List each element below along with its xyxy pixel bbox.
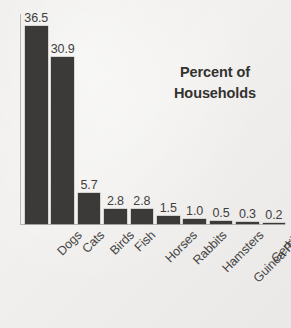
bar (210, 221, 233, 224)
bar (25, 26, 48, 224)
bar-group: 0.3 (236, 14, 259, 224)
bar-group: 0.2 (263, 14, 286, 224)
bar-chart: Percent of Households 36.530.95.72.82.81… (0, 0, 291, 328)
bar (131, 209, 154, 224)
bar-value-label: 0.2 (265, 208, 282, 222)
bar-group: 2.8 (131, 14, 154, 224)
bar-value-label: 1.0 (186, 204, 203, 218)
bar (263, 223, 286, 225)
bar-group: 1.0 (183, 14, 206, 224)
category-label: Gerbils (268, 228, 291, 265)
bar-group: 1.5 (157, 14, 180, 224)
bar-group: 5.7 (78, 14, 101, 224)
bar (104, 209, 127, 224)
bar (183, 219, 206, 224)
bar (157, 216, 180, 224)
bar-value-label: 2.8 (107, 194, 124, 208)
bar-value-label: 2.8 (133, 194, 150, 208)
plot-area: 36.530.95.72.82.81.51.00.50.30.2 (21, 14, 285, 224)
x-axis-labels: DogsCatsBirdsFishHorsesRabbitsHamstersGu… (21, 228, 285, 324)
bar-group: 2.8 (104, 14, 127, 224)
bar-value-label: 36.5 (24, 11, 48, 25)
bar (51, 57, 74, 224)
category-label: Dogs (54, 228, 84, 258)
bar-value-label: 30.9 (51, 42, 75, 56)
bar (236, 222, 259, 224)
bar-value-label: 5.7 (81, 178, 98, 192)
bar-group: 0.5 (210, 14, 233, 224)
category-label: Cats (80, 228, 108, 256)
bar-value-label: 0.3 (239, 207, 256, 221)
category-label: Fish (132, 228, 158, 254)
x-axis-line (20, 224, 285, 225)
bar (78, 193, 101, 224)
bar-value-label: 0.5 (213, 206, 230, 220)
bar-group: 36.5 (25, 14, 48, 224)
bar-group: 30.9 (51, 14, 74, 224)
bar-value-label: 1.5 (160, 201, 177, 215)
